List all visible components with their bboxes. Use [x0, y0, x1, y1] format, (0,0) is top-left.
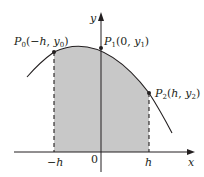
- tick-label-origin: 0: [91, 153, 98, 166]
- point-label-p2: P2(h, y2): [154, 87, 200, 101]
- tick-label-minus-h: −h: [47, 156, 63, 169]
- point-p2: [147, 91, 151, 95]
- simpson-rule-diagram: y x −h 0 h P0(−h, y0) P1(0, y1) P2(h, y2…: [0, 0, 204, 177]
- point-p0: [52, 50, 56, 54]
- point-label-p0: P0(−h, y0): [13, 35, 68, 49]
- y-axis-label: y: [89, 12, 97, 25]
- x-axis-label: x: [188, 156, 195, 169]
- point-p1: [99, 46, 103, 50]
- tick-label-h: h: [145, 156, 152, 169]
- x-axis-arrow-icon: [187, 149, 195, 155]
- y-axis-arrow-icon: [98, 12, 104, 21]
- point-label-p1: P1(0, y1): [103, 35, 149, 49]
